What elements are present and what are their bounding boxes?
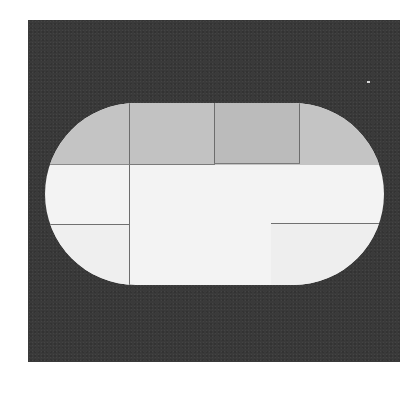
top-divider-line-1 — [129, 103, 130, 285]
top-band-section-center-right — [214, 103, 299, 164]
lower-right-section — [271, 224, 384, 285]
lower-left-section — [45, 225, 129, 285]
top-divider-line-3 — [299, 103, 300, 164]
top-divider-line-2 — [214, 103, 215, 164]
band-boundary-line-left — [45, 164, 130, 165]
stadium-shape-panel — [45, 103, 384, 285]
band-boundary-line-right — [214, 163, 300, 164]
dust-speck — [367, 81, 370, 83]
band-boundary-line-center — [129, 164, 215, 165]
top-band-section-center-left — [129, 103, 214, 165]
